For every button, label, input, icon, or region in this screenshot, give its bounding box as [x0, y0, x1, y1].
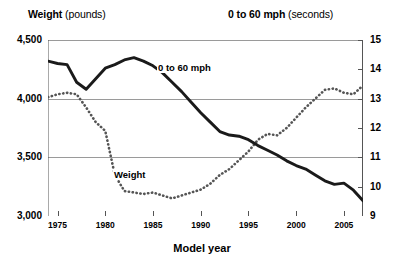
x-axis-tick-label: 1995 — [225, 221, 271, 230]
right-axis-tick-label: 11 — [370, 152, 404, 162]
x-axis-tick-label: 2000 — [273, 221, 319, 230]
accel-series-line — [48, 85, 363, 198]
accel-series-label: 0 to 60 mph — [157, 62, 212, 73]
chart-figure: Weight (pounds) 0 to 60 mph (seconds) 3,… — [0, 0, 404, 266]
x-axis-tick-label: 2005 — [321, 221, 367, 230]
x-axis-tick-label: 1980 — [82, 221, 128, 230]
left-axis-header-title: Weight — [28, 8, 62, 20]
right-axis-tick-label: 14 — [370, 64, 404, 74]
left-axis-tick-label: 4,500 — [0, 35, 42, 45]
weight-series-line — [48, 58, 363, 201]
right-axis-tick-label: 10 — [370, 182, 404, 192]
weight-series-label: Weight — [113, 169, 147, 180]
x-axis-tick-label: 1975 — [35, 221, 81, 230]
right-axis-tick-label: 15 — [370, 35, 404, 45]
left-axis-tick-label: 3,000 — [0, 211, 42, 221]
right-axis-header-unit: (seconds) — [285, 8, 333, 20]
right-axis-tick-label: 13 — [370, 94, 404, 104]
left-axis-tick-label: 3,500 — [0, 152, 42, 162]
right-axis-tick-label: 9 — [370, 211, 404, 221]
x-axis-tick-label: 1985 — [130, 221, 176, 230]
left-axis-tick-label: 4,000 — [0, 94, 42, 104]
left-axis-header-unit: (pounds) — [62, 8, 105, 20]
x-axis-tick-label: 1990 — [178, 221, 224, 230]
right-axis-header-title: 0 to 60 mph — [228, 8, 285, 20]
right-axis-header: 0 to 60 mph (seconds) — [228, 8, 333, 20]
x-tick-marks — [59, 211, 345, 216]
right-axis-tick-label: 12 — [370, 123, 404, 133]
x-axis-title: Model year — [0, 242, 404, 254]
left-axis-header: Weight (pounds) — [28, 8, 106, 20]
